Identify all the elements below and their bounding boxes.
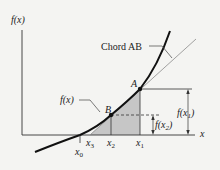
chord-label: Chord AB: [101, 41, 142, 52]
point-a-label: A: [130, 78, 138, 89]
secant-method-diagram: f(x) x Chord AB f(x) A B x0 x3 x2 x1 f(x…: [0, 0, 220, 170]
x1-label: x1: [135, 137, 144, 150]
point-a: [138, 87, 142, 91]
chord-label-text: Chord AB: [101, 41, 142, 52]
x3-label: x3: [85, 137, 94, 150]
fx2-label: f(x2): [155, 119, 173, 132]
fx1-label: f(x1): [177, 107, 195, 120]
curve-label: f(x): [60, 94, 75, 106]
point-b-label: B: [105, 104, 111, 115]
curve-label-leader: [79, 100, 100, 112]
x2-label: x2: [106, 137, 115, 150]
x0-label: x0: [74, 146, 83, 159]
y-axis-label: f(x): [11, 14, 26, 26]
x-axis-label: x: [199, 128, 205, 139]
